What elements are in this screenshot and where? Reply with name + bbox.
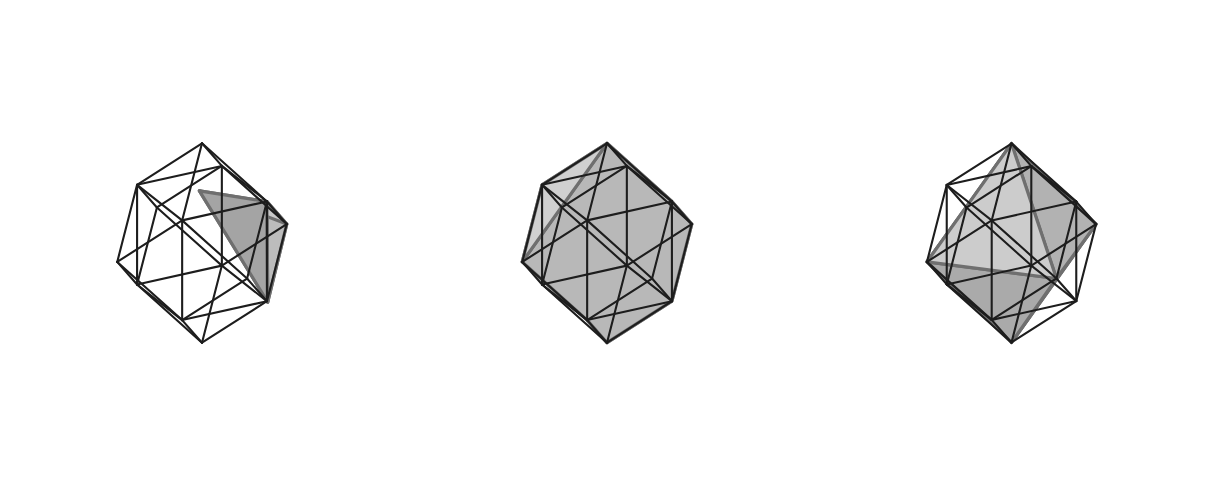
solid-group-2 (522, 143, 692, 342)
cage-edge (947, 185, 967, 208)
solid-face (522, 143, 692, 342)
figure-root (0, 0, 1216, 485)
cage-edge (117, 262, 182, 320)
cage-edge (157, 207, 222, 265)
solid-group-3 (927, 144, 1096, 343)
cage-edge (137, 207, 157, 284)
solid-face (199, 191, 267, 302)
cage-edge (137, 185, 157, 208)
figure-panel-1 (0, 0, 405, 485)
cage-edge (137, 185, 182, 221)
figure-panel-2 (405, 0, 810, 485)
figure-panel-3 (810, 0, 1215, 485)
cage-edge (137, 266, 222, 285)
cage-edge (1056, 278, 1076, 301)
cage-edge (182, 301, 267, 320)
cage-edge (137, 166, 222, 185)
panel-3-canvas (810, 0, 1215, 485)
cage-edge (182, 320, 202, 343)
panel-1-canvas (0, 0, 405, 485)
panel-2-canvas (405, 0, 810, 485)
